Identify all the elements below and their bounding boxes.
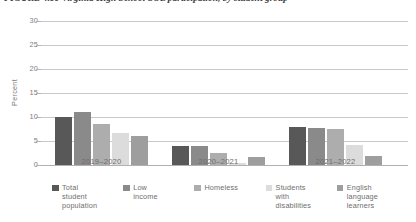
chart-plot-area: Percent 051015202530 2019–20202020–20212… bbox=[0, 0, 416, 178]
y-tick-label: 0 bbox=[12, 160, 38, 169]
y-tick-label: 15 bbox=[12, 88, 38, 97]
y-tick-label: 25 bbox=[12, 40, 38, 49]
y-tick-label: 20 bbox=[12, 64, 38, 73]
legend-item[interactable]: Low income bbox=[123, 183, 190, 201]
bars-layer: 2019–20202020–20212021–2022 bbox=[41, 0, 408, 178]
legend-label: Students with disabilities bbox=[276, 183, 311, 211]
legend-item[interactable]: Students with disabilities bbox=[266, 183, 333, 211]
x-axis-group-label: 2020–2021 bbox=[172, 157, 265, 166]
legend-label: Total student population bbox=[62, 183, 97, 211]
legend-item[interactable]: Total student population bbox=[52, 183, 119, 211]
y-tick-label: 5 bbox=[12, 136, 38, 145]
bar-group-2020-2021: 2020–2021 bbox=[172, 21, 265, 165]
legend-label: Homeless bbox=[204, 183, 238, 192]
legend-item[interactable]: English language learners bbox=[337, 183, 404, 211]
legend-item[interactable]: Homeless bbox=[194, 183, 261, 192]
y-tick-label: 30 bbox=[12, 16, 38, 25]
x-axis-group-label: 2021–2022 bbox=[289, 157, 382, 166]
legend-swatch-icon bbox=[52, 185, 59, 192]
legend-swatch-icon bbox=[337, 185, 344, 192]
bar-group-2019-2020: 2019–2020 bbox=[55, 21, 148, 165]
legend-swatch-icon bbox=[266, 185, 273, 192]
legend-label: English language learners bbox=[347, 183, 378, 211]
chart-legend: Total student populationLow incomeHomele… bbox=[52, 183, 408, 222]
legend-swatch-icon bbox=[123, 185, 130, 192]
legend-swatch-icon bbox=[194, 185, 201, 192]
legend-label: Low income bbox=[133, 183, 157, 201]
x-axis-group-label: 2019–2020 bbox=[55, 157, 148, 166]
y-tick-label: 10 bbox=[12, 112, 38, 121]
bar-group-2021-2022: 2021–2022 bbox=[289, 21, 382, 165]
